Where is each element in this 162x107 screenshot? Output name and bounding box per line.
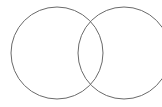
left-circle [11, 7, 103, 99]
venn-diagram [0, 0, 162, 107]
right-circle [78, 7, 162, 99]
